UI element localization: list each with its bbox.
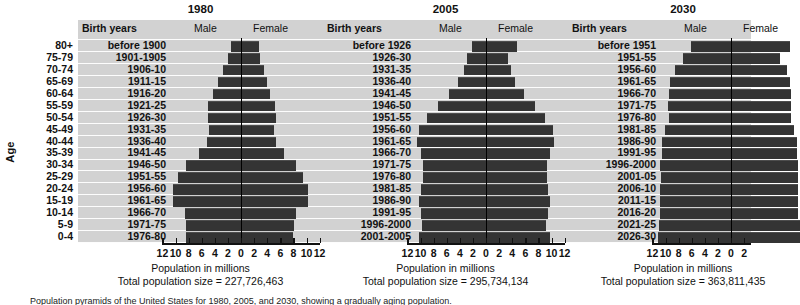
bar-female: [731, 89, 791, 100]
bar-female: [486, 220, 546, 231]
bar-female: [731, 208, 798, 219]
bar-female: [486, 125, 553, 136]
x-axis-line: [407, 243, 564, 245]
x-axis-tick: [176, 238, 177, 243]
legend-male: Male: [194, 22, 217, 34]
bar-male: [423, 172, 486, 183]
x-axis-tick: [189, 238, 190, 243]
bar-male: [675, 65, 731, 76]
age-axis-title: Age: [4, 130, 16, 174]
bar-male: [458, 77, 486, 88]
x-axis-tick: [280, 238, 281, 243]
pyramid-row: 1956-60: [568, 64, 751, 76]
x-axis-tick: [254, 238, 255, 243]
x-axis-tick: [267, 238, 268, 243]
pyramid-row: 1946-50: [323, 100, 568, 112]
bar-male: [223, 65, 241, 76]
pyramid-row: 1906-10: [78, 64, 323, 76]
pyramid-row: 1951-55: [323, 112, 568, 124]
bar-male: [691, 41, 731, 52]
panel-column-headers: Birth yearsMaleFemale: [568, 21, 751, 38]
bar-male: [208, 113, 241, 124]
pyramid-row: 2006-10: [568, 183, 751, 195]
pyramid-row: 1926-30: [323, 52, 568, 64]
pyramid-row: 2026-30: [568, 231, 751, 243]
bar-female: [486, 184, 548, 195]
bar-male: [659, 220, 731, 231]
pyramid-rows: before 19511951-551956-601961-651966-701…: [568, 40, 751, 243]
x-axis-tick: [499, 238, 500, 243]
pyramid-row: 1986-90: [323, 195, 568, 207]
birth-years-label: 1911-15: [78, 76, 169, 88]
bar-male: [422, 220, 486, 231]
bar-female: [731, 184, 798, 195]
bar-female: [241, 125, 274, 136]
pyramid-panel-2030: 2030Birth yearsMaleFemalebefore 19511951…: [568, 0, 751, 305]
pyramid-row: 1966-70: [78, 207, 323, 219]
bar-male: [421, 184, 486, 195]
bar-male: [662, 137, 731, 148]
pyramid-row: 1926-30: [78, 112, 323, 124]
age-tick-labels: 80+75-7970-7465-6960-6455-5950-5445-4940…: [18, 40, 76, 243]
bar-female: [486, 65, 511, 76]
x-axis-tick: [241, 238, 242, 243]
x-axis-tick: [692, 238, 693, 243]
panel-column-headers: Birth yearsMaleFemale: [323, 21, 568, 38]
pyramid-row: 1936-40: [78, 136, 323, 148]
bar-male: [662, 148, 731, 159]
bar-male: [660, 196, 731, 207]
pyramid-row: before 1926: [323, 40, 568, 52]
bar-male: [218, 77, 241, 88]
pyramid-row: 1921-25: [78, 100, 323, 112]
pyramid-row: 1916-20: [78, 88, 323, 100]
bar-male: [419, 125, 486, 136]
x-axis-tick: [215, 238, 216, 243]
bar-female: [241, 77, 267, 88]
pyramid-row: 1981-85: [568, 124, 751, 136]
pyramid-row: 1956-60: [78, 183, 323, 195]
pyramid-row: 1976-80: [323, 171, 568, 183]
bar-female: [731, 220, 800, 231]
bar-male: [661, 172, 731, 183]
pyramid-row: 1971-75: [323, 159, 568, 171]
pyramid-row: 1951-55: [568, 52, 751, 64]
bar-male: [660, 184, 731, 195]
birth-years-label: 1926-30: [78, 112, 169, 124]
x-axis-tick: [162, 238, 163, 243]
bar-female: [486, 148, 550, 159]
bar-female: [731, 148, 797, 159]
pyramid-row: 1931-35: [323, 64, 568, 76]
age-tick-label: 65-69: [18, 76, 76, 88]
bar-female: [731, 53, 780, 64]
pyramid-row: 1976-80: [568, 112, 751, 124]
legend-female: Female: [743, 22, 778, 34]
bar-male: [173, 196, 241, 207]
x-axis-tick: [293, 238, 294, 243]
panel-title: 2030: [568, 3, 798, 15]
x-axis-tick: [744, 238, 745, 243]
x-axis-tick: [525, 238, 526, 243]
header-birth-years: Birth years: [572, 22, 627, 34]
bar-male: [419, 196, 486, 207]
zero-axis-line: [486, 38, 487, 243]
bar-male: [209, 125, 241, 136]
age-tick-label: 45-49: [18, 124, 76, 136]
birth-years-label: 1971-75: [568, 100, 659, 112]
bar-female: [731, 77, 790, 88]
bar-male: [228, 53, 241, 64]
x-axis-tick: [407, 238, 408, 243]
bar-male: [660, 160, 731, 171]
legend-female: Female: [498, 22, 533, 34]
pyramid-row: 1991-95: [568, 147, 751, 159]
bar-male: [213, 89, 241, 100]
bar-female: [486, 101, 535, 112]
age-tick-label: 55-59: [18, 100, 76, 112]
bar-female: [731, 172, 798, 183]
pyramid-row: 1966-70: [323, 147, 568, 159]
bar-female: [731, 101, 791, 112]
panel-title: 1980: [78, 3, 323, 15]
bar-male: [421, 148, 486, 159]
birth-years-label: 1981-85: [568, 124, 659, 136]
bar-female: [486, 160, 547, 171]
pyramid-row: 2021-25: [568, 219, 751, 231]
